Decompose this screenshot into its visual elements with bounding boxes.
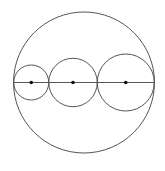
center-dot-3 <box>124 81 128 85</box>
center-dot-2 <box>71 81 75 85</box>
circles-diagram <box>0 0 165 171</box>
center-dot-1 <box>29 81 33 85</box>
